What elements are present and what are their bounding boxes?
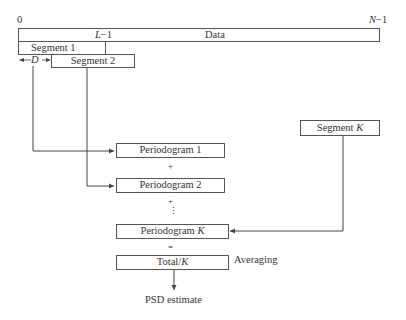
total-box: Total/K	[116, 255, 229, 270]
segment-end-label: L−1	[95, 29, 112, 41]
equals-operator: =	[168, 241, 173, 253]
segment-2-box: Segment 2	[51, 54, 135, 68]
data-bar: L−1 Data	[18, 28, 380, 42]
axis-start-label: 0	[17, 14, 22, 26]
data-label: Data	[205, 29, 225, 41]
segment-k-box: Segment K	[300, 120, 380, 136]
axis-end-label: N−1	[369, 14, 387, 26]
offset-label: D	[31, 54, 39, 66]
ellipsis: ⋮	[169, 205, 178, 217]
averaging-label: Averaging	[234, 254, 278, 266]
periodogram-k-box: Periodogram K	[116, 224, 229, 239]
psd-estimate-label: PSD estimate	[145, 294, 202, 306]
plus-operator: +	[168, 160, 173, 172]
periodogram-1-box: Periodogram 1	[116, 143, 225, 158]
segment-1-box: Segment 1	[18, 41, 106, 55]
periodogram-2-box: Periodogram 2	[116, 178, 225, 193]
